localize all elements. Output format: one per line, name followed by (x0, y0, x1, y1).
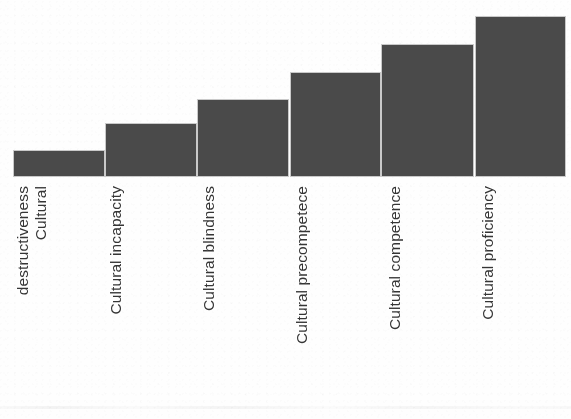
category-label-1: Culturaldestructiveness (15, 186, 49, 382)
category-label-4-line-1: Cultural precompetece (294, 186, 311, 344)
category-label-4: Cultural precompetece (294, 186, 311, 382)
bar-1 (13, 150, 105, 177)
category-label-5: Cultural competence (387, 186, 404, 382)
category-label-3-line-1: Cultural blindness (201, 186, 218, 311)
bar-chart-plot-area (0, 0, 571, 178)
category-label-6: Cultural proficiency (480, 186, 497, 382)
scan-edge-artifact (0, 406, 571, 409)
category-label-2-line-1: Cultural incapacity (108, 186, 125, 315)
category-label-3: Cultural blindness (201, 186, 218, 382)
category-label-1-line-1: Cultural (33, 186, 50, 240)
bar-5 (381, 44, 474, 177)
category-label-5-line-1: Cultural competence (387, 186, 404, 330)
cultural-competence-continuum-figure: CulturaldestructivenessCultural incapaci… (0, 0, 571, 419)
bar-4 (290, 72, 381, 177)
bar-6 (475, 16, 566, 177)
bar-3 (197, 99, 289, 177)
category-axis-labels: CulturaldestructivenessCultural incapaci… (0, 186, 571, 386)
category-label-1-line-2: destructiveness (15, 186, 32, 295)
category-label-2: Cultural incapacity (108, 186, 125, 382)
bar-2 (105, 123, 197, 177)
category-label-6-line-1: Cultural proficiency (480, 186, 497, 320)
